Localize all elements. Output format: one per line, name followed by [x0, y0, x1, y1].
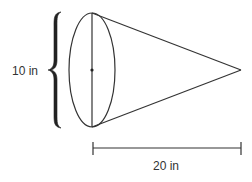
cone-shape	[69, 13, 241, 127]
curly-brace-icon	[48, 12, 61, 128]
height-dimension-line	[93, 142, 241, 155]
base-center-point	[90, 68, 93, 71]
cone-diagram	[0, 0, 252, 182]
diameter-label: 10 in	[12, 64, 38, 78]
height-label: 20 in	[153, 159, 179, 173]
